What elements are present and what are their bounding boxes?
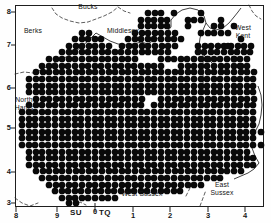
distribution-map-figure: 8 7 6 5 4 3 8 9 0 1 2 3 4 <box>0 0 271 223</box>
grid-square-code-su: SU <box>70 209 82 217</box>
grid-square-code-tq: TQ <box>99 209 111 217</box>
region-label-north-hants: North Hants <box>7 96 41 111</box>
region-label-bucks: Bucks <box>68 3 108 11</box>
region-label-middlesex: Middlesex <box>101 27 145 35</box>
region-label-berks: Berks <box>15 27 51 35</box>
region-label-west-kent: West Kent <box>226 24 260 39</box>
region-label-east-sussex: East Sussex <box>205 181 239 196</box>
region-label-west-sussex: West Sussex <box>114 190 170 198</box>
